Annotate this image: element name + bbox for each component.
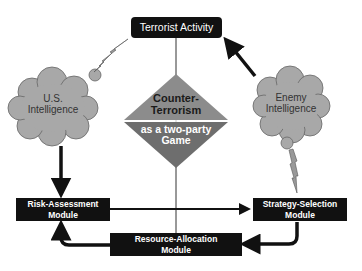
lightning-bolt-icon — [94, 39, 128, 72]
resource-allocation-module: Resource-Allocation Module — [110, 233, 242, 256]
diamond-title: Counter- Terrorism — [136, 93, 216, 116]
arrow-resource-to-risk — [61, 230, 110, 245]
us-intelligence-label: U.S. Intelligence — [17, 94, 89, 115]
strategy-module-line1: Strategy-Selection — [263, 199, 338, 209]
arrow-strategy-to-resource — [250, 222, 297, 244]
diamond-subtitle: as a two-party Game — [126, 124, 226, 146]
arrow-enemy-to-activity — [230, 45, 255, 76]
diamond-title-line1: Counter- — [136, 93, 216, 105]
terrorist-activity-label: Terrorist Activity — [140, 21, 214, 34]
risk-module-line1: Risk-Assessment — [28, 199, 99, 209]
risk-assessment-module: Risk-Assessment Module — [16, 198, 110, 221]
enemy-intelligence-label: Enemy Intelligence — [256, 93, 326, 114]
strategy-selection-module: Strategy-Selection Module — [253, 198, 347, 221]
strategy-module-line2: Module — [263, 210, 338, 220]
resource-module-line1: Resource-Allocation — [135, 234, 218, 244]
us-intelligence-line2: Intelligence — [17, 105, 89, 116]
diamond-subtitle-line2: Game — [126, 135, 226, 146]
risk-module-line2: Module — [28, 210, 99, 220]
lightning-bolt-icon — [289, 149, 298, 193]
enemy-intelligence-line2: Intelligence — [256, 104, 326, 115]
us-intelligence-line1: U.S. — [17, 94, 89, 105]
resource-module-line2: Module — [135, 245, 218, 255]
diamond-title-line2: Terrorism — [136, 105, 216, 117]
enemy-intelligence-line1: Enemy — [256, 93, 326, 104]
terrorist-activity-node: Terrorist Activity — [131, 17, 222, 38]
